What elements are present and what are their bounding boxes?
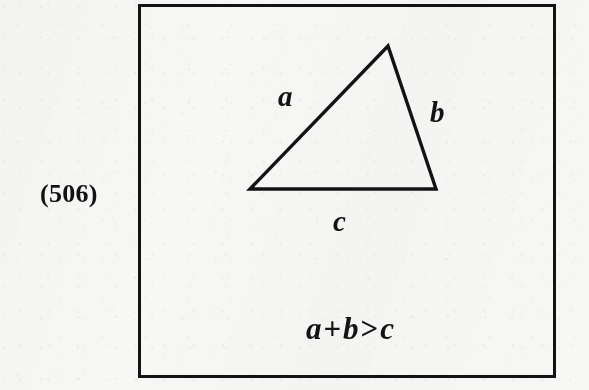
side-label-a: a bbox=[278, 82, 293, 111]
inequality-greater-than-operator: > bbox=[359, 311, 381, 346]
inequality-term-c: c bbox=[380, 311, 394, 346]
inequality-term-a: a bbox=[306, 311, 322, 346]
inequality-expression: a+b>c bbox=[141, 313, 559, 344]
side-label-c: c bbox=[333, 207, 346, 236]
inequality-term-b: b bbox=[343, 311, 359, 346]
triangle-shape bbox=[250, 46, 436, 189]
side-label-b: b bbox=[430, 98, 445, 127]
inequality-plus-operator: + bbox=[321, 311, 343, 346]
figure-frame-box: a+b>c bbox=[138, 4, 556, 378]
figure-number-label: (506) bbox=[40, 181, 98, 207]
